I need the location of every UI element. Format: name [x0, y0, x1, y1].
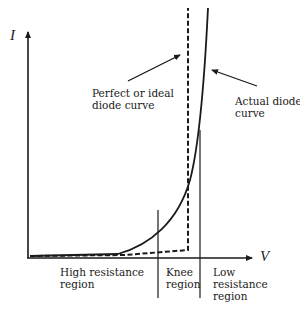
ideal-curve-label: Perfect or ideal diode curve — [92, 87, 174, 111]
x-axis-label: V — [260, 248, 269, 265]
knee-region-label: Knee region — [166, 266, 200, 290]
ideal-diode-curve — [30, 8, 188, 256]
y-axis-label: I — [10, 27, 15, 44]
actual-curve-label: Actual diode curve — [235, 95, 300, 119]
ideal-pointer-arrow — [128, 55, 180, 81]
low-resistance-region-label: Low resistance region — [213, 266, 268, 302]
high-resistance-region-label: High resistance region — [60, 266, 144, 290]
diode-iv-diagram: I V Perfect or ideal diode curve Actual … — [0, 0, 300, 314]
actual-pointer-arrow — [212, 70, 257, 86]
actual-diode-curve — [30, 8, 208, 256]
